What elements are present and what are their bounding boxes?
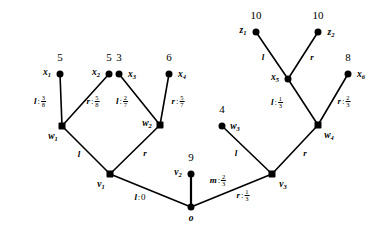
node-label-w4: w4 [324,131,334,141]
edge-label-w3-v3: l [235,149,238,158]
node-value-z1: 10 [251,10,262,21]
edge-label-v3-o: r : 13 [237,189,250,203]
tree-edge-w1-v1 [62,126,110,174]
tree-edge-x2-w1 [62,74,109,126]
node-label-w1: w1 [48,132,58,142]
node-label-v2: v2 [174,168,181,178]
tree-node-x6 [345,71,352,78]
edge-label-w1-v1: l [78,150,81,159]
tree-node-x3 [116,71,123,78]
edge-label-x5-w4: l : 13 [271,96,283,110]
edge-label-v2-o: m : 23 [210,174,226,188]
node-label-v1: v1 [97,180,104,190]
tree-edge-w3-v3 [222,126,272,174]
node-label-x2: x2 [92,68,100,78]
tree-node-w3 [219,123,226,130]
edge-label-x6-w4: r : 23 [338,95,351,109]
tree-node-o [188,204,195,211]
tree-node-z1 [253,29,260,36]
tree-edge-x5-w4 [288,79,318,125]
tree-node-z2 [315,29,322,36]
node-label-v3: v3 [279,180,286,190]
node-value-x4: 6 [166,52,172,63]
tree-node-x2 [106,71,113,78]
tree-edge-x1-w1 [60,74,62,126]
tree-node-x1 [57,71,64,78]
edge-label-w4-v3: r [303,149,307,158]
tree-diagram-figure: x15x25x33x46z110z210x5x68w1w2w34w4v1v29v… [0,0,381,233]
tree-node-w4 [315,122,322,129]
tree-edge-v3-o [191,174,272,207]
tree-node-w2 [157,122,164,129]
edge-label-x2-w1: r : 58 [87,95,100,109]
tree-node-v3 [269,171,276,178]
node-label-x5: x5 [271,73,279,83]
edge-label-x1-w1: l : 38 [34,95,46,109]
node-label-z1: z1 [240,26,247,36]
node-value-x3: 3 [116,52,122,63]
tree-node-x4 [166,71,173,78]
edge-lines-layer [0,0,381,233]
edge-label-x4-w2: r : 57 [172,95,185,109]
tree-node-w1 [59,123,66,130]
node-label-x4: x4 [178,70,186,80]
node-value-z2: 10 [313,10,324,21]
tree-edge-w4-v3 [272,125,318,174]
node-value-v2: 9 [188,152,194,163]
tree-node-v1 [107,171,114,178]
tree-edge-w2-v1 [110,125,160,174]
node-label-o: o [189,214,194,224]
edge-label-x3-w2: l : 27 [116,95,128,109]
tree-edge-v1-o [110,174,191,207]
tree-node-x5 [285,76,292,83]
tree-edge-x4-w2 [160,74,169,125]
node-label-w3: w3 [230,122,240,132]
node-value-x2: 5 [106,52,112,63]
node-value-w3: 4 [219,104,225,115]
edge-label-z2-x5: r [310,53,314,62]
node-value-x6: 8 [345,52,351,63]
edge-label-z1-x5: l [262,53,265,62]
edge-label-v1-o: l : 0 [134,193,145,202]
tree-node-v2 [188,171,195,178]
edge-label-w2-v1: r [143,149,147,158]
node-label-x6: x6 [357,70,365,80]
node-label-z2: z2 [328,28,335,38]
node-label-x1: x1 [43,68,51,78]
node-label-w2: w2 [142,119,152,129]
node-value-x1: 5 [57,52,63,63]
node-label-x3: x3 [128,70,136,80]
